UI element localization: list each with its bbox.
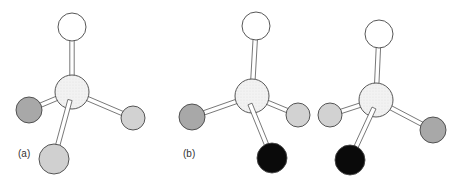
- right-atom: [286, 103, 310, 127]
- left-atom: [318, 103, 342, 127]
- top-atom: [58, 13, 86, 41]
- right-atom: [420, 117, 446, 143]
- left-atom: [16, 97, 42, 123]
- left-atom: [179, 104, 205, 130]
- bottom-atom: [257, 143, 287, 173]
- molecule-panel-3: [318, 20, 446, 175]
- top-atom: [242, 12, 270, 40]
- central-atom: [359, 83, 393, 117]
- panel-label-a: (a): [18, 148, 30, 159]
- molecule-panel-2: [179, 12, 310, 173]
- molecule-diagram: [0, 0, 458, 184]
- top-atom: [365, 20, 393, 48]
- panel-label-b: (b): [183, 148, 195, 159]
- right-atom: [121, 106, 145, 130]
- central-atom: [55, 75, 89, 109]
- molecule-panel-1: [16, 13, 145, 174]
- bottom-atom: [39, 144, 69, 174]
- bottom-atom: [335, 145, 365, 175]
